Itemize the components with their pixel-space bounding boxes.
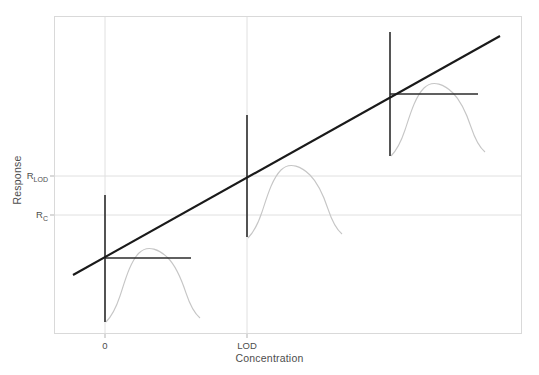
y-tick-rlod-base: R: [27, 170, 34, 181]
y-tick-label-rc: RC: [0, 209, 48, 222]
y-axis-title: Response: [11, 130, 23, 230]
y-tick-rc-subscript: C: [43, 215, 48, 222]
figure-container: 0 LOD RLOD RC Concentration Response: [0, 0, 539, 375]
chart-canvas: [0, 0, 539, 375]
y-tick-label-rlod: RLOD: [0, 170, 48, 183]
x-tick-label-lod: LOD: [227, 340, 267, 351]
x-axis-title: Concentration: [0, 352, 539, 364]
y-tick-rc-base: R: [36, 209, 43, 220]
x-tick-label-zero: 0: [85, 340, 125, 351]
y-tick-rlod-subscript: LOD: [34, 176, 48, 183]
